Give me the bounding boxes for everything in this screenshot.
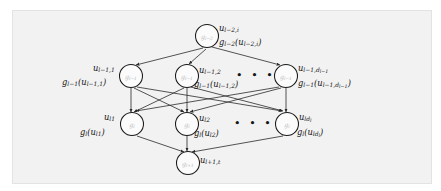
edge-top-to-middle-3: [212, 47, 280, 65]
figure-root: gl−2 gl−1 gl−1 gl−1 gl gl gl gl+: [0, 0, 441, 191]
edge-bottom1-to-sink: [137, 136, 184, 152]
edges-middle-to-bottom: [131, 87, 286, 112]
edge-top-to-middle-1: [136, 48, 203, 65]
label-middle-1-function: gl−1(ul−1,1): [62, 78, 106, 87]
label-bottom-1-variable: ul1: [104, 113, 115, 122]
edges-top-to-middle: [136, 47, 280, 65]
edges-bottom-to-sink: [137, 136, 283, 152]
label-bottom-3-function: gl(uldl): [297, 128, 323, 139]
label-bottom-3-variable: uldl: [299, 113, 312, 124]
ellipsis-bottom-layer: • • •: [234, 118, 273, 129]
node-middle-1[interactable]: gl−1: [120, 65, 143, 88]
ellipsis-middle-layer: • • •: [236, 70, 275, 81]
node-middle-3[interactable]: gl−1: [275, 65, 298, 88]
label-middle-1-variable: ul−1,1: [93, 64, 115, 73]
node-bottom-3[interactable]: gl: [276, 113, 299, 136]
label-top-variable: ul−2,i: [219, 24, 239, 33]
node-bottom-1[interactable]: gl: [121, 113, 144, 136]
label-middle-3-variable: ul−1,dl−1: [298, 64, 328, 75]
label-bottom-2-variable: ul2: [199, 114, 210, 123]
node-sink[interactable]: gl+1: [177, 152, 200, 175]
label-middle-2-function: gl−1(ul−1,2): [194, 80, 238, 89]
label-top-function: gl−2(ul−2,i): [219, 38, 261, 47]
label-middle-3-function: gl−1(ul−1,dl−1): [298, 79, 351, 90]
node-top[interactable]: gl−2: [196, 25, 219, 48]
label-bottom-1-function: gl(ul1): [80, 128, 105, 137]
edge-bottom3-to-sink: [192, 136, 283, 152]
edge-middle2-to-bottom3: [191, 87, 283, 111]
label-sink-variable: ul+1,t: [200, 156, 220, 165]
label-bottom-2-function: gl(ul2): [194, 129, 219, 138]
label-middle-2-variable: ul−1,2: [199, 66, 221, 75]
